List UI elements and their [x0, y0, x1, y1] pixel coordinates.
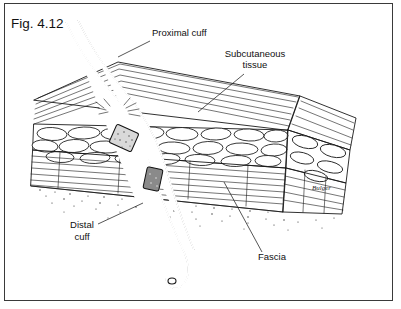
label-distal-cuff: Distal: [70, 219, 94, 230]
illustration-canvas: Fig. 4.12 Proximal cuff Subcutaneous tis…: [0, 0, 401, 309]
figure-caption: Fig. 4.12: [11, 16, 64, 31]
label-distal-cuff-line2: cuff: [74, 231, 90, 242]
subcutaneous-fat-layer: [32, 124, 350, 184]
label-fascia: Fascia: [258, 251, 287, 262]
figure-container: Fig. 4.12 Proximal cuff Subcutaneous tis…: [0, 0, 401, 309]
label-subcutaneous-tissue: Subcutaneous: [225, 48, 286, 59]
leader-distal-cuff: [98, 203, 143, 224]
label-subcutaneous-tissue-line2: tissue: [243, 59, 268, 70]
artist-signature: Bulger: [312, 184, 331, 192]
leader-proximal-cuff: [118, 41, 150, 57]
leader-fascia: [224, 182, 262, 252]
label-proximal-cuff: Proximal cuff: [152, 27, 207, 38]
